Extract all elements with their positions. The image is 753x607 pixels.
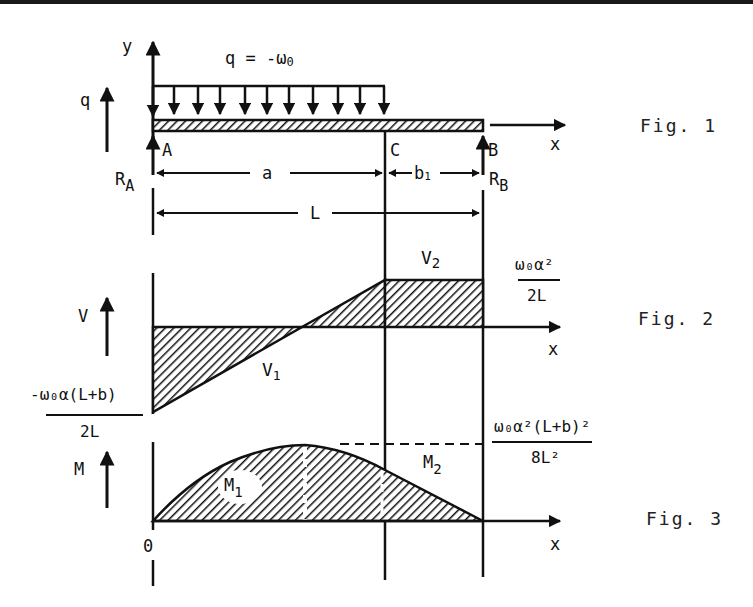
fig3-caption: Fig. 3	[646, 508, 723, 529]
v1-value-numerator: -ω₀α(L+b)	[30, 385, 117, 404]
beam	[153, 120, 483, 131]
q-label: q	[80, 90, 90, 110]
dim-l-label: L	[310, 203, 320, 223]
v2-value-denominator: 2L	[527, 286, 546, 305]
m-axis-label: M	[74, 459, 84, 479]
dim-b-label: b1	[414, 163, 431, 183]
point-a-label: A	[162, 140, 172, 160]
dim-a-label: a	[262, 163, 272, 183]
fig2-caption: Fig. 2	[638, 308, 715, 329]
reaction-b-label: RB	[489, 169, 508, 195]
max-moment-denominator: 8L²	[531, 448, 560, 467]
max-moment-numerator: ω₀α²(L+b)²	[494, 417, 590, 436]
fig1-caption: Fig. 1	[640, 115, 717, 136]
beam-diagrams: y q q = -ω0 x A C B	[0, 0, 753, 607]
reaction-a-label: RA	[115, 169, 134, 195]
figure-2-shear-diagram: V x V1 V2 ω₀α² 2L -ω₀α(L+b) 2L Fig. 2	[30, 247, 715, 441]
v2-region	[385, 280, 483, 327]
figure-3-moment-diagram: M 0 M1 M2 x ω₀α²(L+b)² 8L² Fig. 3	[74, 417, 723, 586]
distributed-load-arrows	[153, 86, 384, 116]
v1-label: V1	[262, 359, 281, 383]
moment-region	[153, 445, 483, 521]
point-c-label: C	[390, 140, 400, 160]
v2-label: V2	[421, 247, 440, 271]
load-label: q = -ω0	[225, 48, 294, 69]
v2-value-numerator: ω₀α²	[515, 255, 554, 274]
point-b-label: B	[488, 140, 498, 160]
v1-positive-region	[302, 280, 385, 327]
m-x-axis-label: x	[550, 534, 560, 554]
y-axis-label: y	[122, 36, 132, 56]
x-axis-label: x	[550, 134, 560, 154]
m2-label: M2	[423, 452, 442, 477]
figure-1-beam: y q q = -ω0 x A C B	[80, 36, 717, 235]
origin-label: 0	[143, 536, 153, 556]
v-axis-label: V	[78, 306, 88, 326]
v-x-axis-label: x	[548, 339, 558, 359]
v1-value-denominator: 2L	[80, 422, 99, 441]
